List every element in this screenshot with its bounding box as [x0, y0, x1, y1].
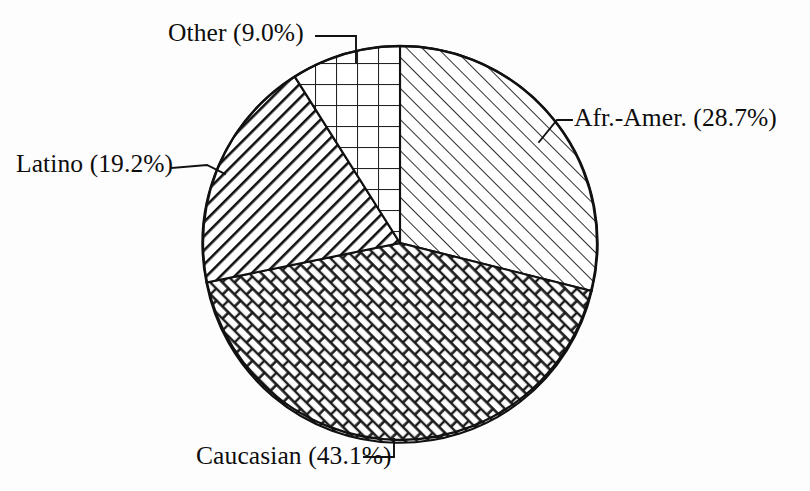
slice-label-other: Other (9.0%): [168, 20, 304, 46]
slice-label-afr-amer: Afr.-Amer. (28.7%): [574, 105, 777, 131]
slice-label-caucasian: Caucasian (43.1%): [196, 443, 392, 469]
pie-chart-figure: Other (9.0%) Afr.-Amer. (28.7%) Latino (…: [0, 0, 810, 491]
pie-chart-svg: [0, 0, 810, 491]
slice-label-latino: Latino (19.2%): [16, 151, 173, 177]
